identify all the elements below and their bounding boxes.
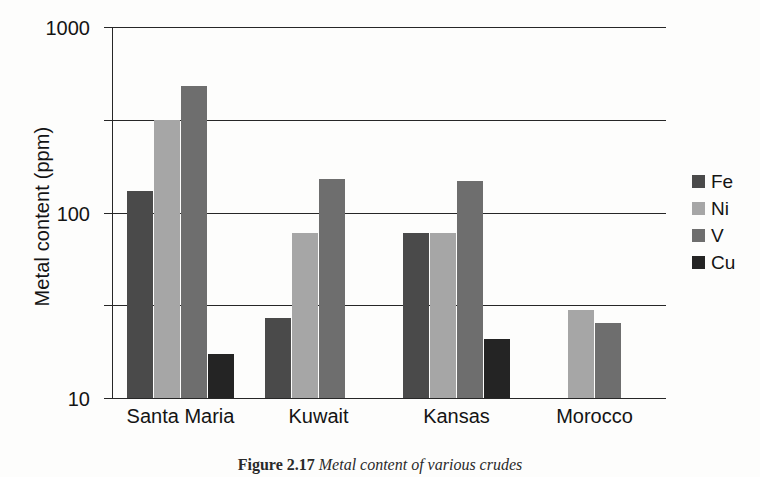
bar-v-kansas bbox=[457, 181, 483, 398]
x-axis-label: Santa Maria bbox=[127, 405, 235, 428]
bar-ni-kansas bbox=[430, 233, 456, 398]
legend-swatch-fe bbox=[692, 175, 705, 188]
bar-fe-kuwait bbox=[265, 318, 291, 398]
bar-v-kuwait bbox=[319, 179, 345, 398]
y-axis-tick-label: 100 bbox=[57, 202, 90, 225]
y-axis-title: Metal content (ppm) bbox=[31, 57, 54, 377]
y-axis-tick-label: 10 bbox=[68, 388, 90, 411]
bar-ni-santa-maria bbox=[154, 120, 180, 398]
plot-area: 0.11101001000 Santa MariaKuwaitKansasMor… bbox=[113, 27, 666, 398]
y-axis-tick: 1000 bbox=[104, 27, 113, 28]
legend-item-fe: Fe bbox=[692, 168, 735, 195]
legend-swatch-cu bbox=[692, 256, 705, 269]
bar-v-morocco bbox=[595, 323, 621, 398]
legend-swatch-ni bbox=[692, 202, 705, 215]
legend-item-v: V bbox=[692, 222, 735, 249]
legend-swatch-v bbox=[692, 229, 705, 242]
y-axis-tick: 100 bbox=[104, 120, 113, 121]
legend-label: Cu bbox=[711, 253, 735, 272]
x-axis-label: Kansas bbox=[423, 405, 490, 428]
legend-label: Fe bbox=[711, 172, 733, 191]
x-axis-label: Kuwait bbox=[288, 405, 348, 428]
x-axis-label: Morocco bbox=[556, 405, 633, 428]
bar-ni-kuwait bbox=[292, 233, 318, 398]
caption-prefix: Figure 2.17 bbox=[238, 456, 315, 473]
bar-v-santa-maria bbox=[181, 86, 207, 398]
y-axis-tick: 1 bbox=[104, 305, 113, 306]
figure-caption: Figure 2.17 Metal content of various cru… bbox=[0, 456, 760, 474]
legend-item-cu: Cu bbox=[692, 249, 735, 276]
caption-text: Metal content of various crudes bbox=[319, 456, 523, 473]
bar-cu-kansas bbox=[484, 339, 510, 398]
gridline bbox=[113, 27, 666, 28]
bar-cu-santa-maria bbox=[208, 354, 234, 398]
bar-ni-morocco bbox=[568, 310, 594, 398]
y-axis-tick: 10 bbox=[104, 213, 113, 214]
legend-label: V bbox=[711, 226, 724, 245]
y-axis-tick: 0.1 bbox=[104, 398, 113, 399]
legend-label: Ni bbox=[711, 199, 729, 218]
y-axis-tick-label: 1000 bbox=[46, 17, 91, 40]
legend-item-ni: Ni bbox=[692, 195, 735, 222]
legend: FeNiVCu bbox=[692, 168, 735, 276]
bar-fe-santa-maria bbox=[127, 191, 153, 398]
gridline bbox=[113, 398, 666, 399]
bar-fe-kansas bbox=[403, 233, 429, 398]
figure-metal-content-chart: Metal content (ppm) 0.11101001000 Santa … bbox=[0, 0, 760, 477]
